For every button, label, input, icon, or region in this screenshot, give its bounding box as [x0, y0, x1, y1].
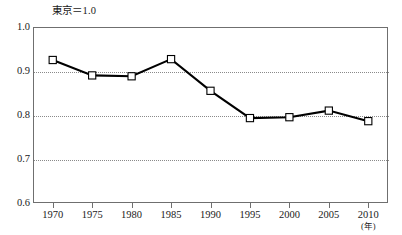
line-chart: 東京＝1.0 1.00.90.80.70.6 19701975198019851…: [0, 0, 402, 235]
x-axis-tick: [329, 203, 330, 208]
x-axis-tick: [289, 203, 290, 208]
x-axis-tick-label: 2000: [267, 210, 311, 221]
gridline: [34, 72, 389, 73]
x-axis-tick-label: 2005: [307, 210, 351, 221]
y-axis-tick-label: 0.7: [4, 154, 30, 165]
x-axis-tick: [368, 203, 369, 208]
x-axis-unit-label: (年): [346, 222, 390, 231]
x-axis-tick: [211, 203, 212, 208]
x-axis-tick: [53, 203, 54, 208]
gridline: [34, 116, 389, 117]
x-axis-tick-label: 1970: [31, 210, 75, 221]
x-axis-tick-label: 1975: [70, 210, 114, 221]
chart-unit-caption: 東京＝1.0: [52, 6, 96, 17]
x-axis-tick-label: 2010: [346, 210, 390, 221]
y-axis-tick-label: 1.0: [4, 22, 30, 33]
y-axis-tick-label: 0.6: [4, 198, 30, 209]
x-axis-tick-label: 1990: [189, 210, 233, 221]
x-axis-tick: [92, 203, 93, 208]
plot-area: [33, 27, 388, 203]
x-axis-tick-label: 1980: [110, 210, 154, 221]
x-axis-tick-label: 1995: [228, 210, 272, 221]
gridline: [34, 160, 389, 161]
y-axis-tick-label: 0.8: [4, 110, 30, 121]
x-axis-tick: [250, 203, 251, 208]
x-axis-tick: [171, 203, 172, 208]
x-axis-tick-label: 1985: [149, 210, 193, 221]
y-axis-tick-label: 0.9: [4, 66, 30, 77]
x-axis-tick: [132, 203, 133, 208]
